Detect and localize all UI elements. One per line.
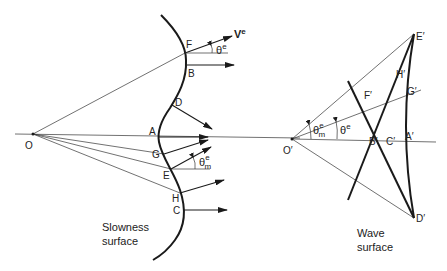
wave-surface-panel: O′ E′ H′ G′ F′ B′ C′ A′ D′ θem θe Wave s…	[283, 31, 436, 253]
wave-branch-F-D	[348, 81, 414, 218]
origin-O-prime-dot	[291, 138, 294, 141]
wave-branch-A	[406, 34, 414, 218]
diagram-canvas: O F B D A G E H C Ve θe θem Slowness sur…	[0, 0, 447, 271]
label-theta-me-left: θem	[199, 153, 212, 171]
label-energy-velocity: Ve	[234, 27, 246, 40]
ray-O-E	[33, 134, 171, 169]
label-A: A	[149, 126, 156, 137]
label-G: G	[152, 149, 160, 160]
slowness-surface-panel: O F B D A G E H C Ve θe θem Slowness sur…	[15, 15, 300, 260]
label-D-prime: D′	[416, 213, 425, 224]
label-H-prime: H′	[396, 69, 405, 80]
label-theta-me-right: θem	[313, 121, 326, 139]
angle-arc-theta-me-right	[309, 124, 311, 139]
origin-O-dot	[32, 133, 35, 136]
label-theta-e-left: θe	[216, 42, 227, 56]
caption-wave: Wave	[357, 227, 385, 239]
label-G-prime: G′	[407, 86, 417, 97]
label-B-prime: B′	[369, 136, 378, 147]
angle-arc-theta-e-left	[211, 45, 212, 53]
horizontal-axis-left	[15, 134, 300, 138]
label-C: C	[173, 205, 180, 216]
caption-surface-left: surface	[102, 235, 138, 247]
wave-branch-H-E	[348, 34, 414, 200]
label-E: E	[163, 170, 170, 181]
ray-O-E-prime	[292, 34, 414, 139]
label-A-prime: A′	[405, 131, 414, 142]
arrow-H	[180, 180, 224, 193]
ray-O-H	[33, 134, 180, 193]
ray-O-G	[33, 134, 164, 154]
label-C-prime: C′	[386, 136, 395, 147]
label-H: H	[172, 193, 179, 204]
label-D: D	[175, 97, 182, 108]
caption-surface-right: surface	[357, 241, 393, 253]
horizontal-axis-right	[292, 139, 436, 142]
label-O-prime: O′	[283, 145, 293, 156]
label-F: F	[186, 39, 192, 50]
label-E-prime: E′	[416, 31, 425, 42]
angle-arc-theta-me-left	[193, 157, 195, 169]
caption-slowness: Slowness	[102, 221, 150, 233]
label-F-prime: F′	[364, 90, 372, 101]
angle-arc-theta-e-right	[336, 121, 337, 139]
label-B: B	[188, 68, 195, 79]
label-O: O	[25, 140, 33, 151]
arrow-D	[172, 105, 212, 129]
label-theta-e-right: θe	[340, 122, 351, 136]
